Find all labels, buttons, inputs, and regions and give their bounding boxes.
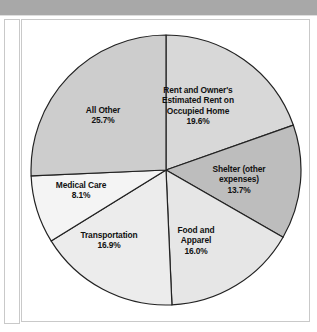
pie-label-transportation: Transportation 16.9% [68, 219, 150, 261]
page-margin-rule [4, 19, 20, 324]
pie-label-all-other: All Other 25.7% [68, 94, 138, 136]
pie-label-medical-text: Medical Care [56, 180, 106, 190]
pie-value-food: 16.0% [165, 246, 227, 257]
pie-value-shelter: 13.7% [197, 185, 281, 196]
pie-label-medical-care: Medical Care 8.1% [42, 169, 120, 211]
pie-label-shelter-text: Shelter (other expenses) [212, 164, 265, 185]
pie-value-all-other: 25.7% [68, 115, 138, 126]
pie-label-food-and-apparel: Food and Apparel 16.0% [165, 214, 227, 267]
pie-label-rent-text: Rent and Owner's Estimated Rent on Occup… [162, 85, 234, 116]
pie-value-rent: 19.6% [155, 116, 241, 127]
pie-value-medical: 8.1% [42, 190, 120, 201]
header-band [0, 0, 317, 16]
pie-chart: Rent and Owner's Estimated Rent on Occup… [22, 20, 311, 323]
pie-label-rent-and-owners-estimated-rent: Rent and Owner's Estimated Rent on Occup… [155, 74, 241, 137]
pie-value-transportation: 16.9% [68, 240, 150, 251]
pie-label-transportation-text: Transportation [80, 230, 137, 240]
pie-label-shelter-other-expenses: Shelter (other expenses) 13.7% [197, 153, 281, 206]
figure-panel: Rent and Owner's Estimated Rent on Occup… [21, 19, 310, 322]
figure-page: Rent and Owner's Estimated Rent on Occup… [0, 0, 317, 332]
pie-label-all-other-text: All Other [86, 105, 120, 115]
pie-label-food-text: Food and Apparel [178, 225, 215, 246]
